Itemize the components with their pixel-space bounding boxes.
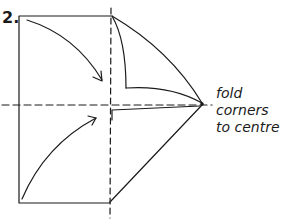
instruction-line-2: corners [216, 102, 280, 119]
bottom-flap-top-edge [112, 106, 200, 120]
instruction-line-1: fold [216, 85, 280, 102]
vertical-centre-line [110, 8, 111, 218]
instruction-line-3: to centre [216, 119, 280, 136]
top-flap-inner-edge [112, 16, 126, 88]
centre-point [200, 102, 204, 106]
top-flap-bottom-edge [126, 88, 202, 103]
step-number: 2. [2, 8, 19, 27]
bottom-arrow [22, 118, 96, 199]
top-arrow [27, 20, 102, 80]
top-flap-outer-edge [112, 16, 202, 103]
instruction-label: fold corners to centre [216, 85, 280, 136]
bottom-flap-diagonal [110, 105, 202, 202]
square-outline [19, 16, 111, 203]
